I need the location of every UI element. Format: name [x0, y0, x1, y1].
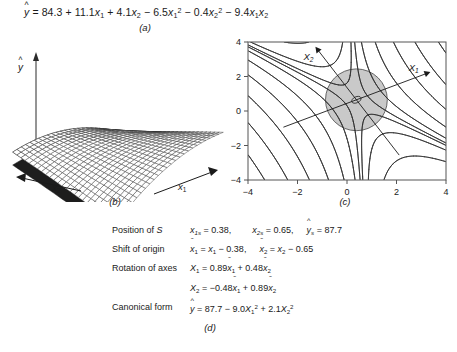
val-shift-b: 0.65 — [296, 244, 314, 254]
val-shift-a: 0.38 — [226, 244, 244, 254]
caption-b: (b) — [60, 196, 170, 207]
contour-plot-c: −4−2024420−2−4 X1 X2 — [222, 36, 454, 198]
row-label-blank — [112, 280, 190, 299]
svg-text:0: 0 — [236, 106, 241, 116]
val-x2s: 0.65 — [274, 225, 292, 235]
caption-c: (c) — [300, 196, 390, 207]
table-row: Position of S x1s = 0.38, x2s = 0.65, y^… — [112, 222, 342, 241]
contour-X2-label: X2 — [303, 51, 314, 63]
contour-svg: −4−2024420−2−4 X1 X2 — [222, 36, 454, 198]
equation-body: = 84.3 + 11.1x1 + 4.1x2 − 6.5x12 − 0.4x2… — [32, 6, 268, 18]
row-value-rotation-1: X1 = 0.89x˜1 + 0.48x˜2 — [190, 260, 342, 279]
surface-x1-label: x1 — [178, 181, 186, 193]
contour-X1-label: X1 — [408, 62, 419, 74]
details-panel-d: Position of S x1s = 0.38, x2s = 0.65, y^… — [112, 222, 412, 321]
surface-x2-label: x2 — [52, 182, 60, 194]
row-value-position: x1s = 0.38, x2s = 0.65, y^s = 87.7 — [190, 222, 342, 241]
caption-d: (d) — [150, 322, 270, 333]
yhat-symbol: y^ — [24, 6, 29, 18]
row-value-canonical: y^ = 87.7 − 9.0X12 + 2.1X22 — [190, 299, 342, 321]
surface-svg — [6, 42, 228, 202]
svg-text:2: 2 — [236, 72, 241, 82]
caption-a: (a) — [0, 22, 290, 33]
svg-text:−2: −2 — [231, 141, 241, 151]
surface-mesh — [13, 128, 224, 202]
val-x1s: 0.38 — [211, 225, 229, 235]
surface-yhat-label: y^ — [18, 62, 23, 73]
table-row: Canonical form y^ = 87.7 − 9.0X12 + 2.1X… — [112, 299, 342, 321]
row-label-canonical: Canonical form — [112, 299, 190, 321]
equation-panel-a: y^ = 84.3 + 11.1x1 + 4.1x2 − 6.5x12 − 0.… — [24, 6, 268, 20]
row-label-position: Position of S — [112, 222, 190, 241]
row-label-shift: Shift of origin — [112, 241, 190, 260]
svg-text:−4: −4 — [243, 187, 253, 197]
val-yhat-s: 87.7 — [324, 225, 342, 235]
surface-plot-b — [6, 42, 228, 202]
svg-text:−4: −4 — [231, 175, 241, 185]
yhat-axis — [33, 52, 39, 142]
svg-text:4: 4 — [236, 37, 241, 47]
table-row: Rotation of axes X1 = 0.89x˜1 + 0.48x˜2 — [112, 260, 342, 279]
row-label-rotation: Rotation of axes — [112, 260, 190, 279]
details-table: Position of S x1s = 0.38, x2s = 0.65, y^… — [112, 222, 342, 321]
svg-text:4: 4 — [443, 187, 448, 197]
svg-text:2: 2 — [394, 187, 399, 197]
row-value-rotation-2: X2 = −0.48x˜1 + 0.89x˜2 — [190, 280, 342, 299]
table-row: X2 = −0.48x˜1 + 0.89x˜2 — [112, 280, 342, 299]
